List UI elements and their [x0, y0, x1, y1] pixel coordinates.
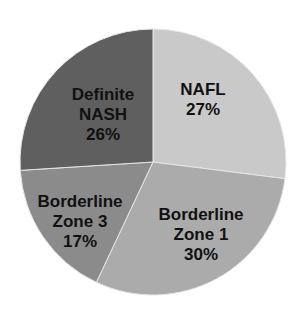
label-nash-line1: Definite: [72, 85, 134, 105]
label-borderline-zone-1: Borderline Zone 1 30%: [158, 205, 243, 265]
label-nafl-percent: 27%: [180, 100, 225, 120]
label-zone1-line1: Borderline: [158, 205, 243, 225]
label-zone3-line2: Zone 3: [37, 212, 122, 232]
label-zone3-line1: Borderline: [37, 192, 122, 212]
label-zone1-line2: Zone 1: [158, 225, 243, 245]
label-borderline-zone-3: Borderline Zone 3 17%: [37, 192, 122, 252]
label-nash-percent: 26%: [72, 125, 134, 145]
pie-chart: [0, 0, 296, 311]
label-nafl: NAFL 27%: [180, 80, 225, 120]
label-definite-nash: Definite NASH 26%: [72, 85, 134, 145]
label-nafl-name: NAFL: [180, 80, 225, 100]
label-nash-line2: NASH: [72, 105, 134, 125]
label-zone1-percent: 30%: [158, 245, 243, 265]
label-zone3-percent: 17%: [37, 232, 122, 252]
pie-slices: [20, 29, 286, 295]
